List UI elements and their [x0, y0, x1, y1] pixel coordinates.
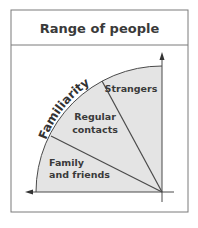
segment-label-family: Family [49, 157, 85, 168]
diagram-title: Range of people [40, 21, 160, 36]
segment-label-and-friends: and friends [49, 169, 110, 180]
segment-label-regular: Regular [74, 111, 116, 122]
range-of-people-diagram: Range of people Familiarity Strangers Re… [0, 0, 198, 228]
segment-label-strangers: Strangers [105, 83, 158, 94]
segment-label-contacts: contacts [72, 124, 118, 135]
